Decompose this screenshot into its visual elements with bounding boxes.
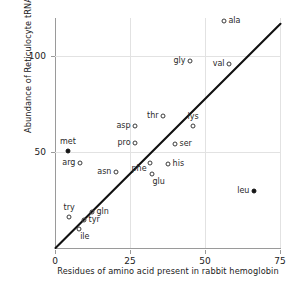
plot-area: alaglyvalthrlysaspprosermetarghispheasng… <box>55 18 280 248</box>
x-tick <box>205 250 206 254</box>
data-point-label-lys: lys <box>187 113 198 121</box>
y-tick-label: 50 <box>35 147 46 157</box>
data-point-ala <box>221 18 226 23</box>
data-point-label-his: his <box>173 160 184 168</box>
data-point-label-ala: ala <box>228 17 240 25</box>
scatter-chart-figure: Abundance of Reticulocyte tRNA Residues … <box>0 0 300 282</box>
data-point-label-glu: glu <box>152 178 164 186</box>
data-point-label-pro: pro <box>118 139 131 147</box>
x-tick <box>130 250 131 254</box>
data-point-ile <box>77 226 82 231</box>
data-point-gln <box>89 209 94 214</box>
y-tick <box>51 152 55 153</box>
y-tick-label: 100 <box>29 51 46 61</box>
data-point-label-met: met <box>60 138 76 146</box>
x-axis-title: Residues of amino acid present in rabbit… <box>55 266 281 276</box>
data-point-lys <box>191 123 196 128</box>
data-point-arg <box>77 161 82 166</box>
x-tick-label: 25 <box>124 256 135 266</box>
data-point-asn <box>113 170 118 175</box>
data-point-label-gly: gly <box>173 57 185 65</box>
data-point-thr <box>161 113 166 118</box>
data-point-label-phe: phe <box>132 165 147 173</box>
x-tick-label: 50 <box>199 256 210 266</box>
data-point-met <box>65 149 70 154</box>
data-point-label-tyr: tyr <box>89 216 100 224</box>
data-point-val <box>227 62 232 67</box>
x-tick-label: 0 <box>52 256 58 266</box>
data-point-label-ile: ile <box>80 233 89 241</box>
data-point-label-val: val <box>213 60 225 68</box>
data-point-tyr <box>82 218 87 223</box>
data-point-gly <box>188 59 193 64</box>
data-point-glu <box>149 172 154 177</box>
data-point-leu <box>251 188 256 193</box>
x-tick <box>280 250 281 254</box>
data-point-label-asp: asp <box>116 122 130 130</box>
data-point-label-arg: arg <box>62 159 75 167</box>
data-point-label-ser: ser <box>180 140 192 148</box>
data-point-his <box>166 162 171 167</box>
x-tick-label: 75 <box>274 256 285 266</box>
y-axis-title: Abundance of Reticulocyte tRNA <box>23 0 33 155</box>
data-point-label-try: try <box>64 204 75 212</box>
data-point-try <box>67 215 72 220</box>
data-point-label-asn: asn <box>97 168 111 176</box>
x-tick <box>55 250 56 254</box>
y-tick <box>51 56 55 57</box>
data-point-label-thr: thr <box>147 112 159 120</box>
data-point-pro <box>133 141 138 146</box>
data-point-label-leu: leu <box>237 187 249 195</box>
data-point-ser <box>173 142 178 147</box>
data-point-phe <box>148 160 153 165</box>
data-point-asp <box>133 124 138 129</box>
